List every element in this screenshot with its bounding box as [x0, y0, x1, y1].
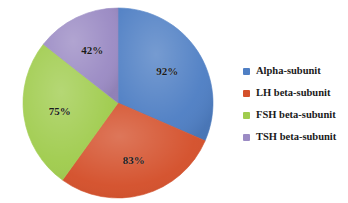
legend-item-label: TSH beta-subunit	[256, 132, 336, 143]
legend-color-swatch-icon	[243, 112, 250, 119]
pie-plot-area: 92%83%75%42%	[0, 0, 225, 203]
pie-slice-value-label: 92%	[156, 65, 178, 77]
legend-item-label: FSH beta-subunit	[256, 110, 336, 121]
legend-color-swatch-icon	[243, 90, 250, 97]
pie-slice-value-label: 42%	[81, 44, 103, 56]
legend-item-label: Alpha-subunit	[256, 66, 321, 77]
pie-slice-value-label: 75%	[49, 105, 71, 117]
legend-item-label: LH beta-subunit	[256, 88, 330, 99]
legend-color-swatch-icon	[243, 134, 250, 141]
pie-slices	[23, 8, 213, 198]
legend-item[interactable]: TSH beta-subunit	[243, 126, 348, 148]
legend-item[interactable]: Alpha-subunit	[243, 60, 348, 82]
chart-legend: Alpha-subunitLH beta-subunitFSH beta-sub…	[243, 60, 348, 148]
pie-chart-figure: 92%83%75%42% Alpha-subunitLH beta-subuni…	[0, 0, 348, 203]
legend-item[interactable]: LH beta-subunit	[243, 82, 348, 104]
legend-color-swatch-icon	[243, 68, 250, 75]
pie-svg	[0, 0, 225, 203]
legend-item[interactable]: FSH beta-subunit	[243, 104, 348, 126]
pie-slice-value-label: 83%	[123, 154, 145, 166]
